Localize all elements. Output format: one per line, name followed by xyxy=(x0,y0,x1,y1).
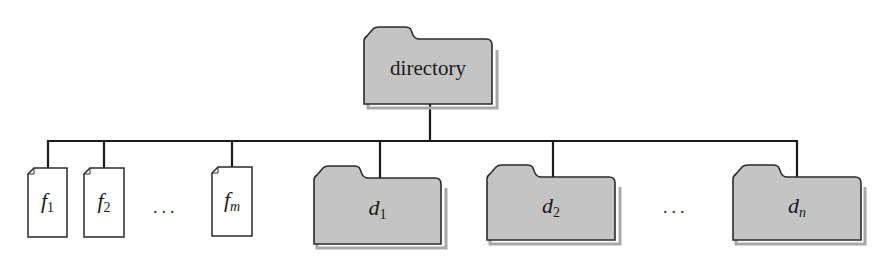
folders-ellipsis: ... xyxy=(663,197,689,218)
file-f2-label: f2 xyxy=(84,188,124,216)
file-f1-label: f1 xyxy=(28,188,67,216)
folder-d2-label: d2 xyxy=(487,193,615,221)
connector-lines xyxy=(47,104,798,178)
root-directory-label: directory xyxy=(364,56,492,81)
file-fm-label: fm xyxy=(212,187,252,215)
files-ellipsis: ... xyxy=(153,197,179,218)
folder-d1-label: d1 xyxy=(314,195,441,223)
folder-dn-label: dn xyxy=(733,193,861,221)
